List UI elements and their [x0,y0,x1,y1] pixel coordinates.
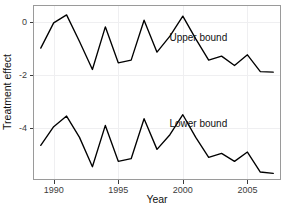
x-tick-label-2005: 2005 [237,185,257,195]
line-chart: 1990199520002005 0-2-4 Upper boundLower … [0,0,286,207]
chart-figure: 1990199520002005 0-2-4 Upper boundLower … [0,0,286,207]
plot-panel-background [33,5,281,180]
y-tick-label-neg2: -2 [19,70,27,80]
x-tick-label-2000: 2000 [173,185,193,195]
x-tick-label-1990: 1990 [44,185,64,195]
y-tick-label-neg4: -4 [19,123,27,133]
x-tick-label-1995: 1995 [108,185,128,195]
y-tick-label-0: 0 [22,17,27,27]
annotation-lower-bound: Lower bound [169,118,227,129]
y-axis-tick-labels: 0-2-4 [19,17,27,134]
x-axis-title: Year [146,193,168,205]
y-axis-title: Treatment effect [1,54,13,130]
annotation-upper-bound: Upper bound [169,32,227,43]
